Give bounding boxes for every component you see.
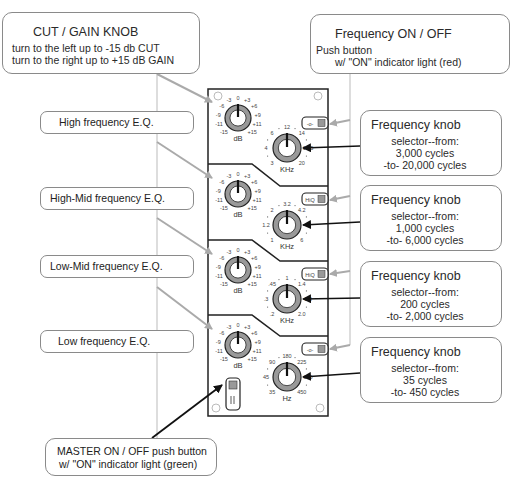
scale-label: 3.2 (283, 201, 291, 207)
master-indicator-light (229, 381, 237, 389)
unit-label: dB (233, 286, 242, 295)
unit-label: KHz (280, 242, 294, 251)
scale-label: -11 (215, 348, 223, 354)
scale-tick (306, 216, 307, 217)
switch-label: -o- (307, 347, 314, 353)
scale-label: -9 (216, 112, 221, 118)
cut-gain-title: CUT / GAIN KNOB (33, 25, 138, 39)
unit-label: KHz (280, 165, 294, 174)
scale-label: 4 (264, 145, 267, 151)
scale-label: -6 (219, 103, 224, 109)
scale-tick (267, 290, 268, 291)
band-label-low-mid: Low-Mid frequency E.Q. (40, 255, 194, 278)
scale-label: -9 (216, 339, 221, 345)
band-label-low: Low frequency E.Q. (40, 330, 194, 353)
master-line2: w/ "ON" indicator light (green) (59, 458, 197, 470)
master-on-off-callout: MASTER ON / OFF push button w/ "ON" indi… (45, 438, 217, 476)
scale-label: +15 (247, 205, 256, 211)
scale-tick (267, 155, 268, 156)
scale-label: -9 (216, 264, 221, 270)
scale-label: 6 (271, 130, 274, 136)
scale-label: 0 (236, 171, 239, 177)
scale-label: -3 (226, 173, 231, 179)
cut-gain-line1: turn to the left up to -15 db CUT (12, 42, 160, 54)
frequency-knob-callout-high: Frequency knob selector--from: 3,000 cyc… (360, 110, 502, 176)
freq-knob-line: selector--from: (355, 135, 495, 147)
scale-tick (278, 357, 279, 358)
scale-tick (306, 232, 307, 233)
band-label-high: High frequency E.Q. (40, 111, 194, 134)
switch-label: HiQ (305, 197, 315, 203)
scale-tick (306, 155, 307, 156)
scale-label: -15 (220, 356, 228, 362)
band-arrow (157, 218, 212, 254)
scale-label: -6 (219, 330, 224, 336)
scale-tick (294, 205, 295, 206)
scale-label: 12 (284, 124, 290, 130)
frequency-indicator-light (318, 346, 325, 353)
frequency-on-off-line1: Push button (316, 44, 372, 56)
scale-label: .3 (264, 296, 269, 302)
freq-knob-line: 35 cycles (355, 374, 495, 386)
scale-label: -11 (215, 197, 223, 203)
scale-label: +6 (251, 330, 257, 336)
scale-label: +15 (247, 356, 256, 362)
scale-label: 1.4 (298, 281, 306, 287)
freq-knob-line: -to- 20,000 cycles (355, 159, 495, 171)
scale-label: +6 (251, 103, 257, 109)
scale-tick (306, 384, 307, 385)
band-arrow (157, 142, 212, 178)
freq-knob-line: selector--from: (355, 286, 495, 298)
master-line1: MASTER ON / OFF push button (57, 445, 207, 457)
scale-tick (267, 306, 268, 307)
freq-knob-line: -to- 6,000 cycles (355, 234, 495, 246)
scale-label: 45 (263, 374, 269, 380)
scale-label: 4.2 (298, 207, 306, 213)
scale-label: 20 (299, 160, 305, 166)
scale-label: +15 (247, 281, 256, 287)
scale-tick (294, 357, 295, 358)
scale-tick (267, 216, 268, 217)
unit-label: dB (233, 134, 242, 143)
scale-label: +15 (247, 129, 256, 135)
scale-label: +11 (253, 348, 262, 354)
scale-label: 1.2 (262, 222, 270, 228)
scale-label: 180 (282, 353, 291, 359)
scale-label: -3 (226, 249, 231, 255)
scale-label: -15 (220, 129, 228, 135)
band-label-high-mid: High-Mid frequency E.Q. (40, 187, 194, 210)
freq-knob-title: Frequency knob (371, 193, 461, 207)
scale-label: +6 (251, 179, 257, 185)
scale-label: 0 (236, 247, 239, 253)
frequency-on-off-title: Frequency ON / OFF (335, 27, 452, 41)
switch-arrow (330, 120, 350, 124)
scale-label: .45 (268, 281, 276, 287)
freq-knob-line: selector--from: (355, 362, 495, 374)
frequency-indicator-light (318, 271, 325, 278)
scale-tick (294, 279, 295, 280)
freq-knob-line: 3,000 cycles (355, 147, 495, 159)
scale-label: 225 (297, 359, 306, 365)
scale-label: -9 (216, 188, 221, 194)
scale-tick (267, 384, 268, 385)
cut-gain-callout: CUT / GAIN KNOB turn to the left up to -… (2, 12, 200, 74)
cut-gain-arrow (157, 74, 212, 102)
scale-label: +3 (244, 173, 250, 179)
freq-knob-arrow (303, 298, 360, 299)
scale-label: +9 (255, 188, 261, 194)
scale-label: +3 (244, 97, 250, 103)
scale-tick (306, 368, 307, 369)
scale-tick (306, 306, 307, 307)
scale-label: -15 (220, 281, 228, 287)
scale-label: +9 (255, 112, 261, 118)
scale-tick (278, 128, 279, 129)
frequency-knob-callout-low: Frequency knob selector--from: 35 cycles… (360, 337, 502, 403)
scale-label: -3 (226, 97, 231, 103)
scale-label: -15 (220, 205, 228, 211)
scale-label: 90 (269, 359, 275, 365)
scale-label: -6 (219, 255, 224, 261)
freq-knob-line: -to- 2,000 cycles (355, 310, 495, 322)
scale-label: -3 (226, 324, 231, 330)
scale-label: 14 (299, 130, 305, 136)
scale-tick (267, 139, 268, 140)
